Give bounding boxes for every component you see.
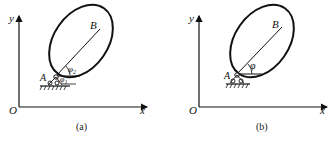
point-b-label: B (272, 18, 279, 30)
origin-label: O (189, 104, 197, 116)
caption-b: (b) (256, 121, 268, 133)
panel-a: O x y B φ2 A φ1 (a) (8, 0, 147, 133)
origin-label: O (9, 104, 17, 116)
point-b-label: B (90, 19, 97, 31)
x-axis-label: x (319, 104, 325, 116)
figure: O x y B φ2 A φ1 (a) O x y (0, 0, 331, 145)
y-axis-label: y (188, 12, 194, 24)
caption-a: (a) (76, 121, 87, 133)
rigid-body-ellipse (36, 0, 126, 89)
x-axis-label: x (139, 104, 145, 116)
support-wheel-right (55, 81, 59, 85)
rigid-body-ellipse (217, 0, 307, 89)
panel-b: O x y B φ A (b) (188, 0, 327, 133)
angle-label-phi: φ (250, 60, 256, 71)
line-ab (56, 29, 100, 76)
y-axis-label: y (8, 12, 14, 24)
point-a-label: A (39, 72, 47, 83)
angle-label-phi2: φ2 (68, 64, 76, 75)
point-a-label: A (223, 70, 231, 81)
